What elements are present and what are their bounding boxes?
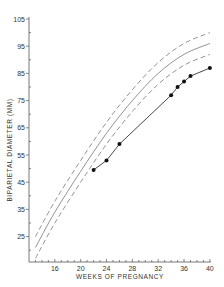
reference-curves [35, 33, 209, 259]
x-axis-title: WEEKS OF PREGNANCY [76, 273, 164, 280]
x-tick-label: 20 [77, 265, 85, 272]
bpd-growth-chart: 253545556575859510516202428323640 WEEKS … [0, 0, 224, 287]
mean-curve [35, 43, 209, 247]
upper-limit-curve [35, 33, 209, 237]
x-tick-label: 32 [154, 265, 162, 272]
y-tick-label: 65 [17, 124, 25, 131]
y-tick-label: 85 [17, 70, 25, 77]
y-tick-label: 105 [13, 16, 25, 23]
data-point-marker [92, 168, 96, 172]
data-point-marker [176, 85, 180, 89]
patient-line [94, 68, 210, 170]
y-tick-label: 55 [17, 152, 25, 159]
y-axis-title: BIPARIETAL DIAMETER (MM) [6, 98, 14, 201]
data-point-marker [105, 158, 109, 162]
x-tick-label: 28 [128, 265, 136, 272]
data-point-marker [169, 93, 173, 97]
y-tick-label: 35 [17, 206, 25, 213]
y-tick-label: 95 [17, 43, 25, 50]
lower-limit-curve [35, 54, 209, 258]
y-tick-label: 25 [17, 233, 25, 240]
x-tick-label: 40 [206, 265, 214, 272]
x-tick-label: 24 [103, 265, 111, 272]
y-tick-label: 45 [17, 179, 25, 186]
axes: 253545556575859510516202428323640 [13, 16, 214, 273]
x-tick-label: 16 [51, 265, 59, 272]
x-tick-label: 36 [180, 265, 188, 272]
data-point-marker [208, 66, 212, 70]
data-point-marker [182, 80, 186, 84]
data-point-marker [189, 74, 193, 78]
data-point-marker [117, 142, 121, 146]
patient-series [92, 66, 212, 172]
y-tick-label: 75 [17, 97, 25, 104]
